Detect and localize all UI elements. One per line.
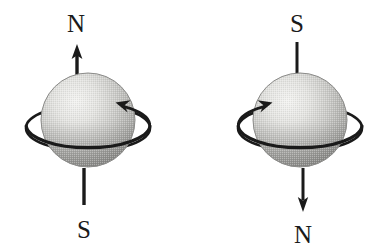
right-top-pole-label: S	[290, 10, 304, 37]
figure-root: N S	[0, 0, 379, 249]
right-bottom-pole-label: N	[294, 221, 312, 248]
right-sphere	[253, 73, 347, 167]
left-bottom-pole-label: S	[77, 216, 91, 243]
left-top-pole-label: N	[67, 10, 85, 37]
left-sphere	[41, 73, 135, 167]
spinning-spheres-figure: N S	[0, 0, 379, 249]
